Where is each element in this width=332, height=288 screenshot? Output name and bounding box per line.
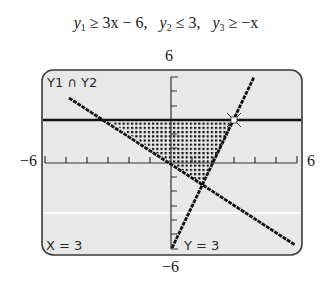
calculator-screen: Y1 ∩ Y2 X = 3 Y = 3 (0, 0, 332, 288)
scan-stripe (43, 212, 301, 214)
x-readout: X = 3 (46, 238, 82, 253)
y-readout: Y = 3 (183, 238, 219, 253)
intersection-label: Y1 ∩ Y2 (46, 75, 97, 90)
